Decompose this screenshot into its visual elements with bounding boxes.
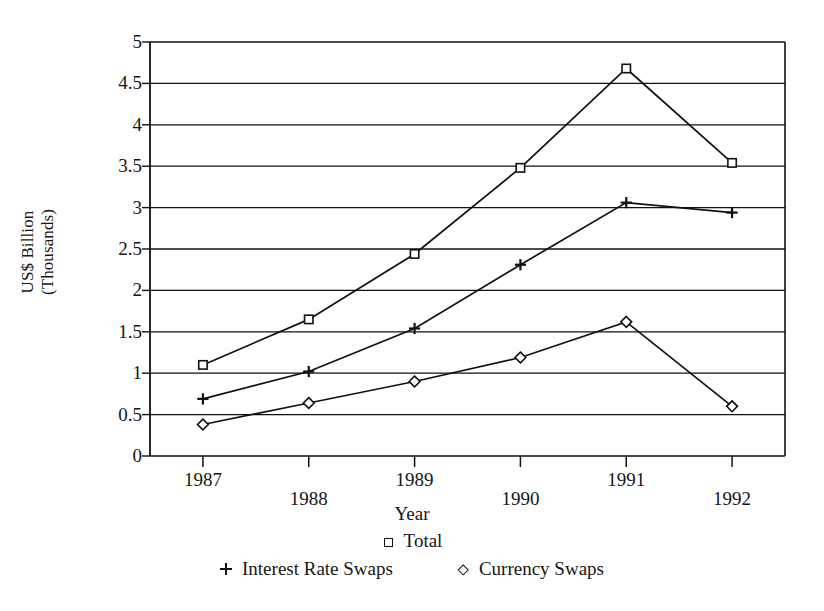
diamond-marker-icon — [457, 563, 470, 576]
legend-label-total: Total — [404, 528, 443, 554]
chart-legend: Total Interest Rate Swaps Currency Swaps — [0, 528, 824, 582]
plus-marker-icon — [220, 563, 233, 576]
legend-entry-total: Total — [382, 528, 443, 554]
chart-figure: US$ Billion (Thousands) 00.511.522.533.5… — [0, 0, 824, 611]
x-axis-title: Year — [0, 503, 824, 525]
x-tick-label: 1989 — [370, 470, 460, 489]
legend-row-2: Interest Rate Swaps Currency Swaps — [0, 556, 824, 582]
square-marker-icon — [382, 535, 395, 548]
x-tick-label: 1991 — [581, 470, 671, 489]
x-tick-label: 1987 — [158, 470, 248, 489]
legend-entry-currency-swaps: Currency Swaps — [457, 556, 604, 582]
legend-row-1: Total — [0, 528, 824, 554]
legend-entry-interest-rate-swaps: Interest Rate Swaps — [220, 556, 393, 582]
legend-label-interest-rate-swaps: Interest Rate Swaps — [242, 556, 393, 582]
legend-label-currency-swaps: Currency Swaps — [479, 556, 604, 582]
